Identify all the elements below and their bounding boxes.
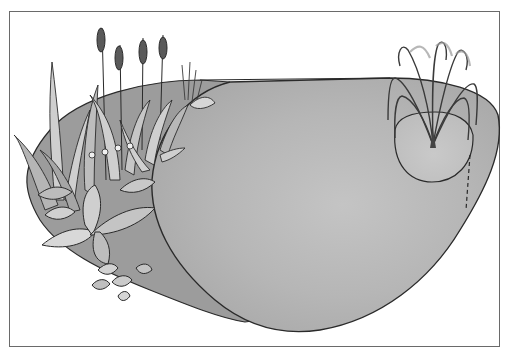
pond-illustration: [0, 0, 509, 351]
